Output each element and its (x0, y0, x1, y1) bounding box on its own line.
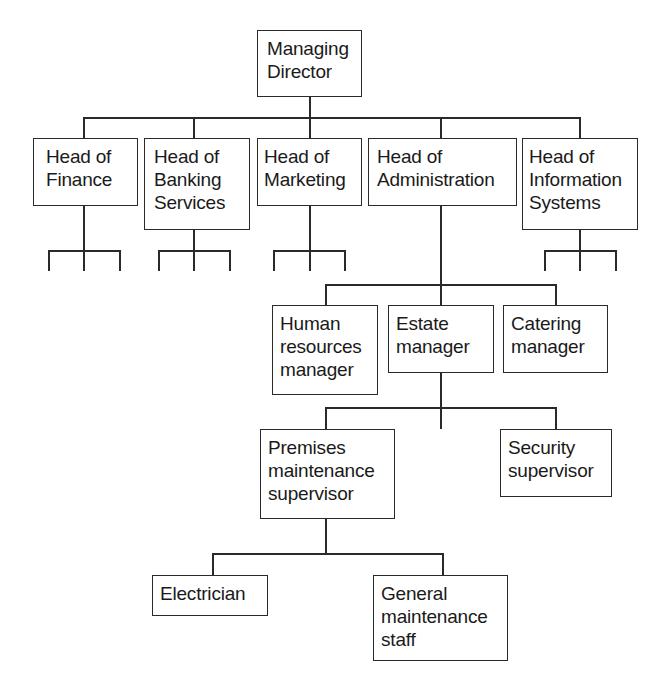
connector-banking-up (193, 117, 195, 138)
node-label-line: Services (154, 191, 240, 214)
stub-marketing-1 (273, 250, 275, 271)
connector-premises-up (325, 407, 327, 429)
node-label-line: Human (280, 312, 368, 335)
connector-finance-down (83, 205, 85, 271)
node-label-line: resources (280, 335, 368, 358)
node-premises-maintenance-supervisor: Premises maintenance supervisor (260, 429, 395, 519)
node-label-line: Estate (396, 312, 484, 335)
node-head-of-marketing: Head of Marketing (257, 138, 362, 206)
node-estate-manager: Estate manager (388, 305, 494, 373)
stub-marketing-3 (344, 250, 346, 271)
stub-finance-1 (48, 250, 50, 271)
node-label-line: manager (511, 335, 598, 358)
stub-bar-finance (48, 250, 120, 252)
node-head-of-finance: Head of Finance (33, 138, 138, 206)
stub-bar-banking (158, 250, 230, 252)
connector-admin-down (440, 205, 442, 305)
node-label-line: Finance (46, 168, 128, 191)
stub-bar-infosys (544, 250, 616, 252)
node-general-maintenance-staff: General maintenance staff (373, 575, 508, 661)
node-label-line: Information (529, 168, 628, 191)
node-label-line: Head of (264, 145, 352, 168)
stub-banking-1 (158, 250, 160, 271)
connector-level2-bar (83, 117, 580, 119)
connector-catering-up (555, 284, 557, 305)
connector-infosys-up (579, 117, 581, 138)
node-label-line: Security (508, 436, 602, 459)
node-label-line: Catering (511, 312, 598, 335)
node-label-line: Electrician (160, 582, 258, 605)
node-managing-director: Managing Director (257, 30, 362, 97)
node-label-line: Head of (154, 145, 240, 168)
node-label-line: Premises (268, 436, 385, 459)
node-label-line: manager (280, 358, 368, 381)
connector-admin-up (440, 117, 442, 138)
connector-md-down (309, 96, 311, 118)
connector-hr-up (325, 284, 327, 305)
node-label-line: maintenance (268, 459, 385, 482)
node-label-line: Systems (529, 191, 628, 214)
node-label-line: maintenance (381, 605, 498, 628)
stub-infosys-3 (615, 250, 617, 271)
connector-marketing-up (309, 117, 311, 138)
node-head-of-banking-services: Head of Banking Services (144, 138, 250, 230)
node-label-line: Marketing (264, 168, 352, 191)
connector-level5-bar (212, 553, 443, 555)
node-label-line: Administration (377, 168, 507, 191)
connector-general-up (442, 553, 444, 575)
node-head-of-administration: Head of Administration (368, 138, 517, 206)
node-human-resources-manager: Human resources manager (272, 305, 378, 395)
node-label-line: Banking (154, 168, 240, 191)
connector-estate-down (440, 372, 442, 429)
connector-level3-bar (325, 284, 556, 286)
node-catering-manager: Catering manager (503, 305, 608, 373)
node-label-line: Managing (267, 37, 352, 60)
node-label-line: supervisor (268, 482, 385, 505)
node-security-supervisor: Security supervisor (500, 429, 612, 497)
node-head-of-information-systems: Head of Information Systems (522, 138, 638, 230)
stub-finance-3 (119, 250, 121, 271)
connector-finance-up (83, 117, 85, 138)
connector-security-up (555, 407, 557, 429)
connector-marketing-down (309, 205, 311, 271)
node-label-line: supervisor (508, 459, 602, 482)
node-electrician: Electrician (152, 575, 268, 616)
node-label-line: Director (267, 60, 352, 83)
stub-infosys-1 (544, 250, 546, 271)
node-label-line: Head of (529, 145, 628, 168)
connector-electrician-up (212, 553, 214, 575)
stub-banking-3 (229, 250, 231, 271)
connector-premises-down (325, 518, 327, 554)
stub-bar-marketing (273, 250, 345, 252)
node-label-line: staff (381, 628, 498, 651)
node-label-line: Head of (46, 145, 128, 168)
connector-level4-bar (325, 407, 556, 409)
node-label-line: manager (396, 335, 484, 358)
node-label-line: Head of (377, 145, 507, 168)
node-label-line: General (381, 582, 498, 605)
